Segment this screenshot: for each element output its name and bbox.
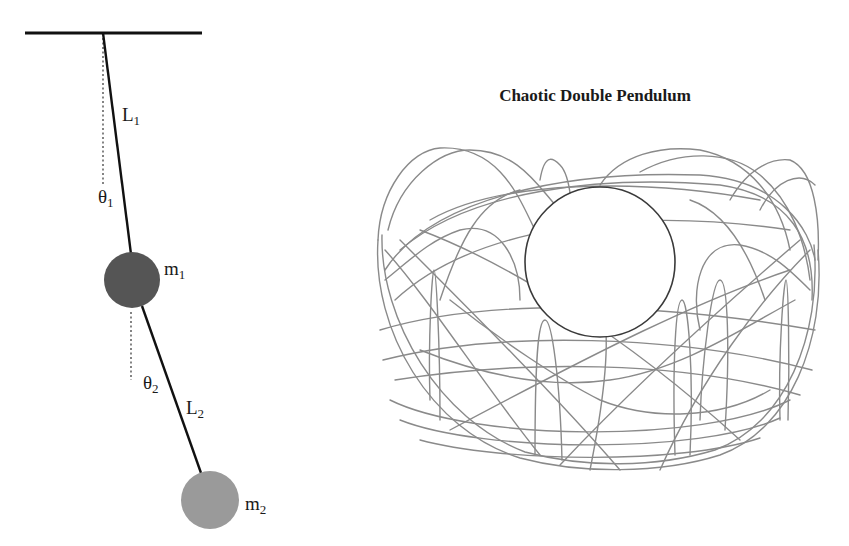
rod-1-symbol: L <box>122 104 134 125</box>
rod-1-label: L1 <box>122 104 140 129</box>
rod-2-subscript: 2 <box>198 406 205 421</box>
mass-2-symbol: m <box>245 493 260 514</box>
angle-1-symbol: θ <box>98 186 107 207</box>
plot-title: Chaotic Double Pendulum <box>470 86 720 106</box>
angle-2-label: θ2 <box>143 372 159 397</box>
double-pendulum-figure: L1 θ1 m1 θ2 L2 m2 Chaotic Double Pendulu… <box>0 0 849 546</box>
mass-1-bob <box>104 252 160 308</box>
angle-2-symbol: θ <box>143 372 152 393</box>
rod-2-label: L2 <box>186 397 204 422</box>
mass-2-bob <box>181 471 239 529</box>
mass-2-label: m2 <box>245 493 266 518</box>
rod-2-symbol: L <box>186 397 198 418</box>
angle-2-subscript: 2 <box>152 381 159 396</box>
angle-1-subscript: 1 <box>107 195 114 210</box>
angle-1-label: θ1 <box>98 186 114 211</box>
mass-1-subscript: 1 <box>179 267 186 282</box>
mass-1-symbol: m <box>164 258 179 279</box>
rod-1-subscript: 1 <box>134 113 141 128</box>
rod-1 <box>103 33 131 254</box>
figure-canvas <box>0 0 849 546</box>
mass-2-subscript: 2 <box>260 502 267 517</box>
inner-exclusion-circle <box>525 187 675 337</box>
mass-1-label: m1 <box>164 258 185 283</box>
